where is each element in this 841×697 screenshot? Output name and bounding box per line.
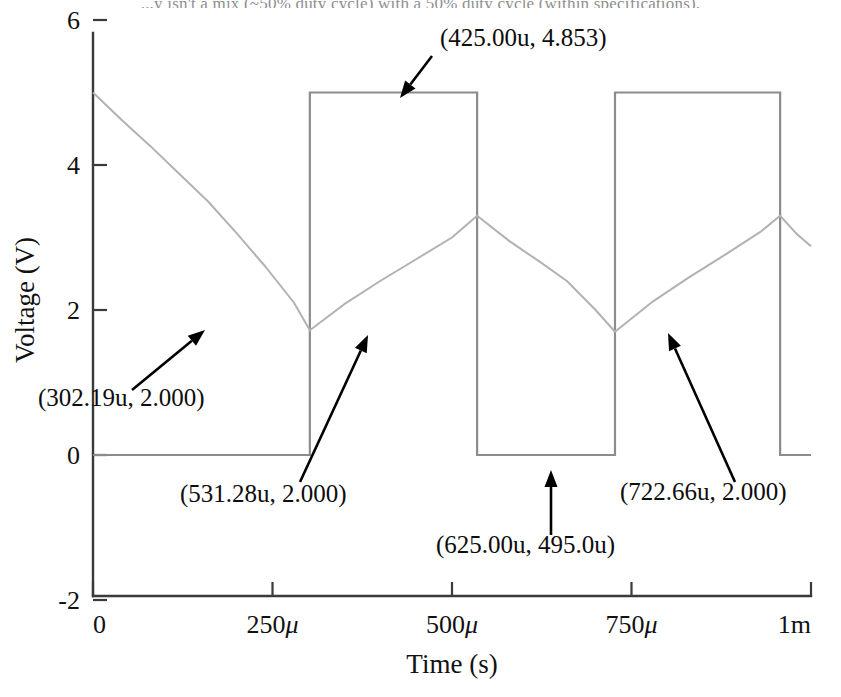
annotation-arrowhead	[355, 335, 368, 353]
x-tick-label: 1m	[778, 610, 811, 639]
x-tick-label: 750μ	[605, 610, 657, 639]
x-tick-unit: μ	[643, 610, 657, 639]
chart-figure: ...y isn't a mix (~50% duty cycle) with …	[0, 0, 841, 697]
y-axis-title: Voltage (V)	[10, 237, 40, 363]
y-tick-label: -2	[58, 586, 80, 615]
annotation-425u: (425.00u, 4.853)	[400, 24, 607, 98]
x-tick-label: 0	[93, 610, 106, 639]
annotation-leader-line	[410, 56, 432, 84]
x-tick-label: 250μ	[246, 610, 298, 639]
x-tick-value: 750	[605, 610, 644, 639]
annotation-arrowhead	[400, 81, 415, 98]
annotation-label: (625.00u, 495.0u)	[436, 531, 615, 559]
x-tick-unit: μ	[464, 610, 478, 639]
annotation-leader-line	[132, 341, 192, 390]
y-tick-label: 2	[67, 296, 80, 325]
x-tick-value: 250	[246, 610, 285, 639]
annotation-group: (425.00u, 4.853)(302.19u, 2.000)(531.28u…	[38, 24, 787, 559]
x-axis-title: Time (s)	[406, 649, 497, 679]
x-tick-unit: μ	[284, 610, 298, 639]
annotation-leader-line	[675, 349, 735, 482]
y-tick-label: 0	[67, 441, 80, 470]
page-running-text: ...y isn't a mix (~50% duty cycle) with …	[0, 0, 841, 8]
axes	[93, 33, 811, 596]
annotation-label: (531.28u, 2.000)	[180, 480, 347, 508]
annotation-625u: (625.00u, 495.0u)	[436, 470, 615, 559]
y-tick-group: 6420-2	[58, 6, 107, 615]
annotation-label: (722.66u, 2.000)	[620, 478, 787, 506]
y-tick-label: 6	[67, 6, 80, 35]
x-tick-group: 0250μ500μ750μ1m	[93, 582, 811, 639]
annotation-531u: (531.28u, 2.000)	[180, 335, 368, 508]
annotation-arrowhead	[545, 470, 558, 487]
x-tick-value: 500	[426, 610, 465, 639]
voltage-vs-time-plot: 6420-2 0250μ500μ750μ1m (425.00u, 4.853)(…	[0, 0, 841, 697]
y-tick-label: 4	[67, 151, 80, 180]
x-tick-label: 500μ	[426, 610, 478, 639]
annotation-arrowhead	[668, 333, 681, 351]
annotation-label: (425.00u, 4.853)	[440, 24, 607, 52]
trace-capacitor-ramp	[93, 93, 811, 332]
annotation-302u: (302.19u, 2.000)	[38, 330, 205, 412]
annotation-722u: (722.66u, 2.000)	[620, 333, 787, 506]
annotation-label: (302.19u, 2.000)	[38, 384, 205, 412]
